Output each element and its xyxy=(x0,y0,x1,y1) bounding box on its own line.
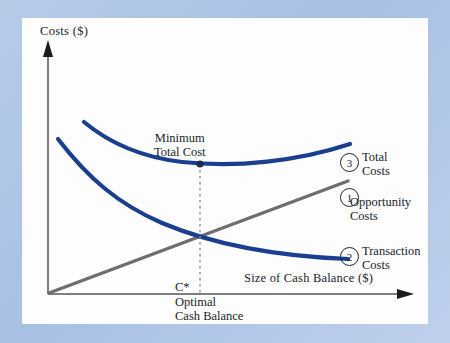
optimal-balance-line3: Cash Balance xyxy=(175,309,243,324)
legend-total-costs-label: Total Costs xyxy=(362,151,390,179)
legend-opportunity-costs-line1: Opportunity xyxy=(350,196,411,210)
y-axis-arrowhead xyxy=(43,40,53,57)
minimum-total-cost-line2: Total Cost xyxy=(154,145,206,159)
legend-transaction-costs-label: Transaction Costs xyxy=(362,245,421,273)
minimum-total-cost-label: Minimum Total Cost xyxy=(154,131,206,160)
minimum-total-cost-line1: Minimum xyxy=(154,131,206,145)
x-axis-label: Size of Cash Balance ($) xyxy=(244,271,373,285)
legend-opportunity-costs-label: Opportunity Costs xyxy=(350,196,411,224)
optimal-cash-balance-label: C* Optimal Cash Balance xyxy=(175,280,243,324)
legend-marker-2: 2 xyxy=(340,247,359,266)
total-costs-curve xyxy=(84,122,350,164)
figure-frame: Costs ($) Size of Cash Balance ($) Minim… xyxy=(0,0,450,343)
x-axis-arrowhead xyxy=(397,289,414,299)
legend-marker-3: 3 xyxy=(340,153,359,172)
legend-transaction-costs-line1: Transaction xyxy=(362,245,421,259)
legend-transaction-costs-line2: Costs xyxy=(362,259,421,273)
legend-total-costs-line2: Costs xyxy=(362,165,390,179)
chart-panel: Costs ($) Size of Cash Balance ($) Minim… xyxy=(22,18,428,324)
legend-opportunity-costs-line2: Costs xyxy=(350,210,411,224)
minimum-total-cost-point xyxy=(196,160,203,167)
optimal-balance-line1: C* xyxy=(175,280,243,295)
legend-total-costs-line1: Total xyxy=(362,151,390,165)
optimal-balance-line2: Optimal xyxy=(175,295,243,310)
y-axis-label: Costs ($) xyxy=(40,24,88,38)
